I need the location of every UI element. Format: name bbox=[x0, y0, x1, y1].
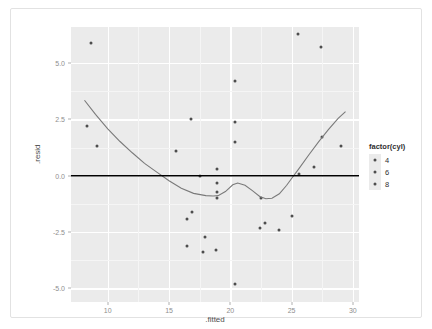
y-axis-tick-label: -5.0 bbox=[53, 285, 65, 292]
data-point bbox=[215, 190, 218, 193]
gridline-horizontal-minor bbox=[71, 148, 359, 149]
data-point bbox=[198, 174, 201, 177]
legend-items: 468 bbox=[369, 154, 429, 190]
data-point bbox=[186, 244, 189, 247]
legend: factor(cyl) 468 bbox=[369, 142, 429, 190]
y-axis-tick-mark bbox=[68, 119, 71, 120]
x-axis-tick-label: 30 bbox=[349, 307, 357, 314]
gridline-horizontal-minor bbox=[71, 91, 359, 92]
data-point bbox=[190, 118, 193, 121]
x-axis-title: .fitted bbox=[71, 315, 359, 324]
gridline-horizontal bbox=[71, 288, 359, 289]
y-axis-tick-label: -2.5 bbox=[53, 229, 65, 236]
gridline-horizontal bbox=[71, 176, 359, 177]
y-axis: 5.02.50.0-2.5-5.0 bbox=[31, 27, 71, 302]
gridline-horizontal bbox=[71, 232, 359, 233]
data-point bbox=[234, 80, 237, 83]
y-axis-title: .resid bbox=[33, 144, 42, 164]
data-point bbox=[89, 41, 92, 44]
legend-item-label: 4 bbox=[385, 156, 389, 165]
loess-smooth-line bbox=[84, 100, 345, 198]
data-point bbox=[215, 181, 218, 184]
chart-root: 5.02.50.0-2.5-5.0 1015202530 .resid .fit… bbox=[0, 0, 432, 329]
x-axis-tick-mark bbox=[291, 302, 292, 305]
data-point bbox=[263, 222, 266, 225]
data-point bbox=[234, 120, 237, 123]
data-point bbox=[85, 125, 88, 128]
data-point bbox=[339, 145, 342, 148]
data-point bbox=[296, 32, 299, 35]
plot-frame: 5.02.50.0-2.5-5.0 1015202530 .resid .fit… bbox=[10, 8, 422, 318]
data-point bbox=[215, 168, 218, 171]
data-point bbox=[186, 217, 189, 220]
x-axis-tick-label: 10 bbox=[104, 307, 112, 314]
data-point bbox=[234, 140, 237, 143]
legend-item: 8 bbox=[369, 178, 429, 190]
legend-key-point-icon bbox=[369, 154, 381, 166]
legend-item-label: 6 bbox=[385, 168, 389, 177]
gridline-horizontal-minor bbox=[71, 204, 359, 205]
data-point bbox=[234, 282, 237, 285]
data-point bbox=[95, 145, 98, 148]
data-point bbox=[202, 251, 205, 254]
y-axis-tick-label: 2.5 bbox=[55, 116, 65, 123]
legend-key-point-icon bbox=[369, 178, 381, 190]
legend-key-point-icon bbox=[369, 166, 381, 178]
data-point bbox=[258, 226, 261, 229]
data-point bbox=[278, 228, 281, 231]
legend-item-label: 8 bbox=[385, 180, 389, 189]
data-point bbox=[297, 172, 300, 175]
legend-item: 4 bbox=[369, 154, 429, 166]
x-axis-tick-label: 25 bbox=[288, 307, 296, 314]
y-axis-tick-label: 5.0 bbox=[55, 60, 65, 67]
x-axis-tick-mark bbox=[352, 302, 353, 305]
plot-panel bbox=[71, 27, 359, 302]
data-point bbox=[259, 197, 262, 200]
data-point bbox=[320, 46, 323, 49]
x-axis-tick-label: 15 bbox=[165, 307, 173, 314]
data-point bbox=[215, 197, 218, 200]
x-axis-tick-label: 20 bbox=[226, 307, 234, 314]
x-axis-tick-mark bbox=[169, 302, 170, 305]
x-axis-tick-mark bbox=[107, 302, 108, 305]
gridline-horizontal bbox=[71, 63, 359, 64]
y-axis-tick-label: 0.0 bbox=[55, 172, 65, 179]
gridline-horizontal bbox=[71, 119, 359, 120]
data-point bbox=[321, 136, 324, 139]
legend-title: factor(cyl) bbox=[369, 142, 429, 151]
y-axis-tick-mark bbox=[68, 175, 71, 176]
y-axis-tick-mark bbox=[68, 63, 71, 64]
legend-item: 6 bbox=[369, 166, 429, 178]
data-point bbox=[175, 149, 178, 152]
data-point bbox=[191, 210, 194, 213]
data-point bbox=[214, 249, 217, 252]
x-axis-tick-mark bbox=[230, 302, 231, 305]
data-point bbox=[290, 215, 293, 218]
gridline-horizontal-minor bbox=[71, 260, 359, 261]
data-point bbox=[312, 165, 315, 168]
y-axis-tick-mark bbox=[68, 288, 71, 289]
data-point bbox=[203, 235, 206, 238]
y-axis-tick-mark bbox=[68, 232, 71, 233]
